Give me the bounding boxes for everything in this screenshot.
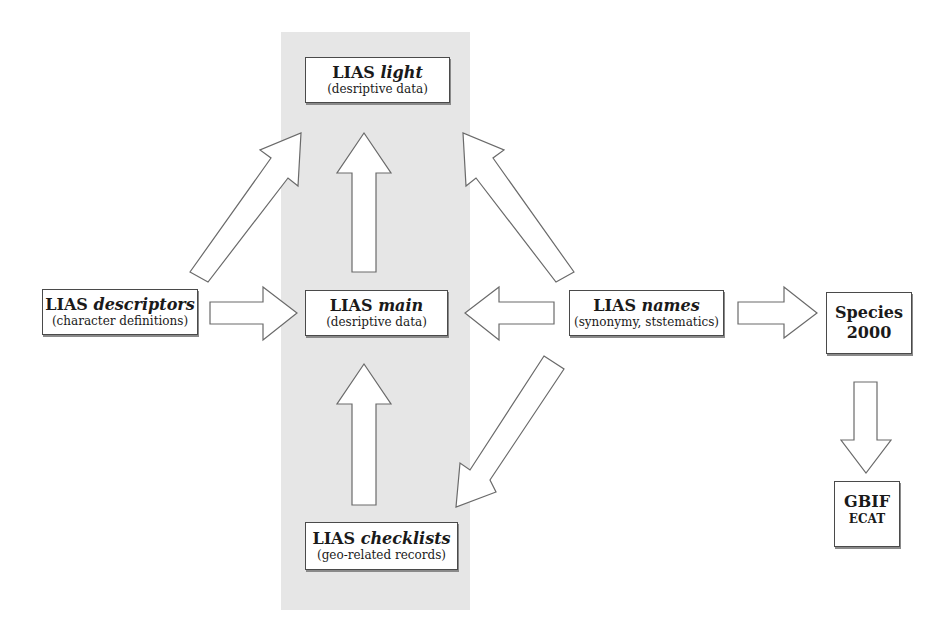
node-lias-light: LIAS light (desriptive data)	[305, 57, 450, 103]
node-title-line2: 2000	[847, 323, 892, 343]
node-gbif-ecat: GBIF ECAT	[834, 481, 900, 547]
node-subtitle: (character definitions)	[52, 314, 188, 329]
node-lias-names: LIAS names (synonymy, ststematics)	[569, 290, 724, 336]
node-title-line2: ECAT	[849, 512, 885, 527]
node-lias-descriptors: LIAS descriptors (character definitions)	[42, 289, 198, 335]
node-title-line1: Species	[835, 303, 903, 323]
arrow-names-to-main	[465, 287, 554, 340]
node-lias-main: LIAS main (desriptive data)	[305, 290, 448, 336]
arrow-descriptors-to-light	[190, 133, 301, 282]
arrow-descriptors-to-main	[210, 287, 297, 340]
arrow-names-to-species2000	[738, 287, 817, 338]
node-species-2000: Species 2000	[826, 292, 912, 354]
node-subtitle: (desriptive data)	[326, 315, 427, 330]
arrow-species2000-to-gbif	[841, 382, 891, 473]
node-title: LIAS main	[330, 296, 423, 315]
node-subtitle: (synonymy, ststematics)	[574, 315, 719, 330]
node-title: LIAS names	[593, 296, 699, 315]
node-subtitle: (geo-related records)	[317, 548, 446, 563]
arrow-names-to-light	[463, 133, 574, 282]
node-title: LIAS descriptors	[45, 295, 195, 314]
node-title-line1: GBIF	[844, 492, 890, 512]
arrow-names-to-checklists	[456, 356, 564, 507]
node-title: LIAS checklists	[312, 529, 450, 548]
node-title: LIAS light	[332, 63, 423, 82]
node-lias-checklists: LIAS checklists (geo-related records)	[305, 522, 458, 570]
node-subtitle: (desriptive data)	[327, 82, 428, 97]
arrow-main-to-light	[337, 133, 391, 272]
arrow-checklists-to-main	[337, 364, 391, 505]
